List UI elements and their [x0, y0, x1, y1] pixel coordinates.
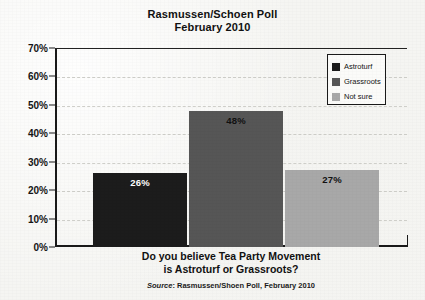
legend-swatch-icon: [332, 93, 340, 101]
bar-not-sure[interactable]: 27%: [285, 170, 379, 247]
x-axis-caption-line2: is Astroturf or Grassroots?: [55, 263, 407, 276]
legend-item-astroturf[interactable]: Astroturf: [332, 59, 382, 74]
bar-value-label: 27%: [285, 174, 379, 185]
legend-item-grassroots[interactable]: Grassroots: [332, 74, 382, 89]
legend-label: Not sure: [344, 92, 372, 101]
y-axis-ticks: [0, 48, 60, 247]
source-label: Source: [147, 281, 172, 290]
bar-astroturf[interactable]: 26%: [93, 173, 187, 247]
x-axis-caption-line1: Do you believe Tea Party Movement: [55, 250, 407, 263]
bar-grassroots[interactable]: 48%: [189, 111, 283, 247]
x-axis-caption: Do you believe Tea Party Movement is Ast…: [55, 250, 407, 276]
legend-swatch-icon: [332, 78, 340, 86]
chart-legend: AstroturfGrassrootsNot sure: [327, 54, 386, 105]
chart-page: Rasmussen/Schoen Poll February 2010 0%10…: [0, 0, 425, 300]
chart-title: Rasmussen/Schoen Poll: [0, 8, 425, 21]
legend-label: Astroturf: [344, 62, 372, 71]
source-text: : Rasmussen/Shoen Poll, February 2010: [172, 281, 315, 290]
chart-title-block: Rasmussen/Schoen Poll February 2010: [0, 8, 425, 34]
bar-value-label: 48%: [189, 115, 283, 126]
legend-swatch-icon: [332, 63, 340, 71]
source-note: Source: Rasmussen/Shoen Poll, February 2…: [55, 281, 407, 290]
legend-label: Grassroots: [344, 77, 381, 86]
bar-value-label: 26%: [93, 177, 187, 188]
chart-subtitle: February 2010: [0, 21, 425, 34]
legend-item-not-sure[interactable]: Not sure: [332, 89, 382, 104]
